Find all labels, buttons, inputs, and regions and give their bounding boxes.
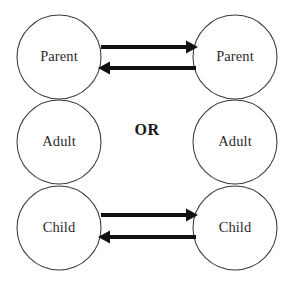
diagram-canvas: Parent Adult Child Parent Adult <box>0 0 291 285</box>
ego-label-right-child: Child <box>219 219 252 235</box>
ego-label-left-parent: Parent <box>40 48 78 64</box>
transaction-arrow-child-to-child-right[interactable] <box>101 209 198 222</box>
ego-state-left-parent[interactable]: Parent <box>17 15 101 99</box>
transaction-arrow-parent-to-parent-left[interactable] <box>98 62 196 75</box>
left-person-ego-states: Parent Adult Child <box>17 15 101 270</box>
ego-state-left-child[interactable]: Child <box>17 186 101 270</box>
ego-label-right-adult: Adult <box>218 133 252 149</box>
ego-label-left-adult: Adult <box>42 133 76 149</box>
transaction-arrow-parent-to-parent-right[interactable] <box>101 41 198 54</box>
ego-label-left-child: Child <box>43 219 76 235</box>
right-person-ego-states: Parent Adult Child <box>193 15 277 270</box>
connector-label-or: OR <box>135 121 160 138</box>
ego-state-right-parent[interactable]: Parent <box>193 15 277 99</box>
transaction-arrow-child-to-child-left[interactable] <box>98 231 196 244</box>
ego-state-right-child[interactable]: Child <box>193 186 277 270</box>
transactional-analysis-diagram: Parent Adult Child Parent Adult <box>0 0 291 285</box>
ego-state-right-adult[interactable]: Adult <box>193 100 277 184</box>
ego-state-left-adult[interactable]: Adult <box>17 100 101 184</box>
ego-label-right-parent: Parent <box>216 48 254 64</box>
